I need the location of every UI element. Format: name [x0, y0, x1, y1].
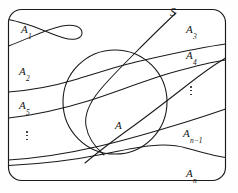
venn-diagram-figure: A1A2A5A3A4An−1AnAS	[0, 0, 238, 193]
label-a3-base: A	[186, 23, 193, 35]
label-a1: A1	[21, 24, 32, 35]
label-an-subscript: n	[193, 176, 197, 185]
label-an: An	[186, 168, 197, 179]
label-a3-subscript: 3	[193, 32, 197, 41]
vertical-dots-right	[188, 86, 194, 95]
diagram-canvas	[0, 0, 238, 193]
label-an1: An−1	[183, 128, 202, 139]
label-a3: A3	[186, 24, 197, 35]
label-a4: A4	[186, 50, 197, 61]
label-a2-base: A	[19, 65, 26, 77]
label-a5-base: A	[19, 99, 26, 111]
ellipsis-dot	[26, 135, 28, 137]
ellipsis-dot	[190, 90, 192, 92]
label-an1-subscript: n−1	[190, 136, 203, 145]
label-a1-subscript: 1	[28, 32, 32, 41]
label-a2-subscript: 2	[26, 74, 30, 83]
label-a5-subscript: 5	[26, 108, 30, 117]
label-a: A	[115, 120, 122, 131]
vertical-dots-left	[24, 131, 30, 140]
label-a5: A5	[19, 100, 30, 111]
label-a4-base: A	[186, 49, 193, 61]
label-s-base: S	[170, 6, 176, 18]
label-a-base: A	[115, 119, 122, 131]
label-a1-base: A	[21, 23, 28, 35]
ellipsis-dot	[190, 86, 192, 88]
ellipsis-dot	[26, 131, 28, 133]
ellipsis-dot	[26, 139, 28, 141]
label-s: S	[170, 7, 176, 19]
label-a4-subscript: 4	[193, 58, 197, 67]
label-an-base: A	[186, 167, 193, 179]
label-an1-base: A	[183, 127, 190, 139]
ellipsis-dot	[190, 94, 192, 96]
label-a2: A2	[19, 66, 30, 77]
